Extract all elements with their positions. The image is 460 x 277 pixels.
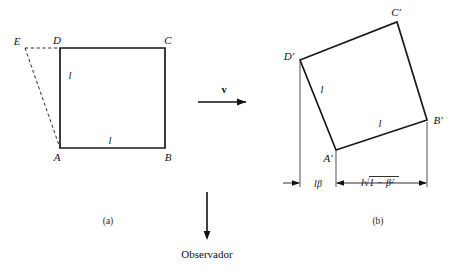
dashed-line-e-to-a bbox=[25, 48, 60, 148]
velocity-label: v bbox=[221, 84, 227, 95]
rotated-square-abcd-prime bbox=[300, 22, 427, 150]
dimension-right-exponent: 2 bbox=[391, 177, 395, 185]
dimension-left-arrowhead bbox=[292, 180, 300, 186]
vertex-label-b-prime: B′ bbox=[433, 114, 443, 126]
vertex-label-a: A bbox=[53, 151, 61, 163]
dimension-right-arrowhead-left bbox=[336, 180, 344, 186]
side-label-d-prime-a-prime: l bbox=[321, 84, 324, 95]
side-label-a-prime-b-prime: l bbox=[379, 118, 382, 129]
side-label-ab: l bbox=[109, 135, 112, 146]
panel-a-caption: (a) bbox=[103, 216, 114, 227]
velocity-arrow-head bbox=[237, 99, 246, 106]
svg-text:l√1 − β2: l√1 − β2 bbox=[361, 177, 395, 188]
square-abcd bbox=[60, 48, 165, 148]
figure-canvas: E D C A B l l (a) v D′ C′ B′ A′ l l bbox=[0, 0, 460, 277]
physics-figure: E D C A B l l (a) v D′ C′ B′ A′ l l bbox=[0, 0, 460, 277]
dimension-right-radicand: 1 − β bbox=[369, 177, 391, 188]
side-label-ad: l bbox=[69, 70, 72, 81]
vertex-label-d: D bbox=[52, 34, 61, 46]
dimension-label-l-sqrt: l√1 − β2 bbox=[361, 177, 399, 189]
vertex-label-d-prime: D′ bbox=[283, 50, 295, 62]
dimension-right-arrowhead-right bbox=[419, 180, 427, 186]
vertex-label-c-prime: C′ bbox=[391, 6, 401, 18]
vertex-label-b: B bbox=[165, 151, 172, 163]
vertex-label-a-prime: A′ bbox=[322, 152, 333, 164]
vertex-label-e: E bbox=[13, 35, 21, 47]
dimension-label-l-beta: lβ bbox=[314, 178, 322, 189]
vertex-label-c: C bbox=[164, 34, 172, 46]
observer-label: Observador bbox=[181, 248, 233, 260]
observer-arrow-head bbox=[204, 231, 211, 240]
panel-b-caption: (b) bbox=[372, 216, 383, 227]
